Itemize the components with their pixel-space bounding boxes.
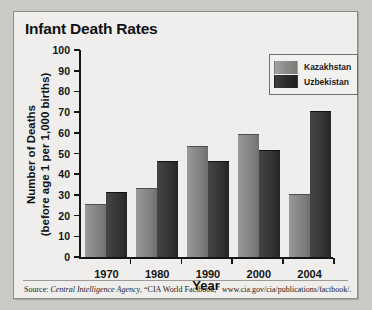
y-tick <box>74 194 80 196</box>
legend-swatch-kazakhstan <box>274 61 298 74</box>
bar-2000-kazakhstan <box>238 134 259 257</box>
y-tick <box>74 49 80 51</box>
x-tick <box>333 258 335 264</box>
legend-swatch-uzbekistan <box>274 75 298 88</box>
y-axis-line <box>79 50 81 259</box>
bar-2004-uzbekistan <box>310 111 331 257</box>
source-prefix: Source: <box>24 285 48 294</box>
y-tick-label: 60 <box>58 127 70 139</box>
legend-label-kazakhstan: Kazakhstan <box>304 62 351 72</box>
y-tick-label: 20 <box>58 210 70 222</box>
y-tick <box>74 236 80 238</box>
y-axis-title-line2: (before age 1 per 1,000 births) <box>39 73 51 237</box>
y-tick <box>74 173 80 175</box>
bar-1990-kazakhstan <box>187 146 208 257</box>
y-tick-label: 50 <box>58 148 70 160</box>
y-tick <box>74 153 80 155</box>
bar-1990-uzbekistan <box>208 161 229 257</box>
y-tick <box>74 91 80 93</box>
y-axis-title-line1: Number of Deaths <box>25 105 37 204</box>
y-tick-label: 100 <box>52 44 70 56</box>
legend-item-kazakhstan: Kazakhstan <box>274 61 351 74</box>
legend-item-uzbekistan: Uzbekistan <box>274 75 351 88</box>
source-agency: Central Intelligence Agency <box>50 285 140 294</box>
source-divider <box>23 280 348 281</box>
y-tick-label: 80 <box>58 85 70 97</box>
bar-2004-kazakhstan <box>289 194 310 257</box>
bar-1980-kazakhstan <box>136 188 157 257</box>
chart-title: Infant Death Rates <box>25 20 157 38</box>
bar-2000-uzbekistan <box>259 150 280 257</box>
y-tick <box>74 215 80 217</box>
y-tick <box>74 70 80 72</box>
chart-legend: KazakhstanUzbekistan <box>269 54 358 95</box>
x-axis-line <box>79 257 333 259</box>
bar-1970-kazakhstan <box>85 204 106 257</box>
y-tick-label: 30 <box>58 189 70 201</box>
x-tick <box>130 258 132 264</box>
y-tick-label: 40 <box>58 168 70 180</box>
bar-1980-uzbekistan <box>157 161 178 257</box>
bar-1970-uzbekistan <box>106 192 127 257</box>
x-tick <box>231 258 233 264</box>
y-tick <box>74 256 80 258</box>
y-tick-label: 0 <box>64 251 70 263</box>
chart-figure: Infant Death Rates Number of Deaths (bef… <box>13 11 358 299</box>
legend-label-uzbekistan: Uzbekistan <box>304 77 349 87</box>
x-tick <box>282 258 284 264</box>
y-tick <box>74 132 80 134</box>
y-tick-label: 70 <box>58 106 70 118</box>
source-note: Source: Central Intelligence Agency, “CI… <box>24 285 349 294</box>
y-tick-label: 10 <box>58 230 70 242</box>
y-tick <box>74 111 80 113</box>
x-tick <box>181 258 183 264</box>
y-tick-label: 90 <box>58 65 70 77</box>
source-rest: , “CIA World Factbook,” www.cia.gov/cia/… <box>140 285 351 294</box>
